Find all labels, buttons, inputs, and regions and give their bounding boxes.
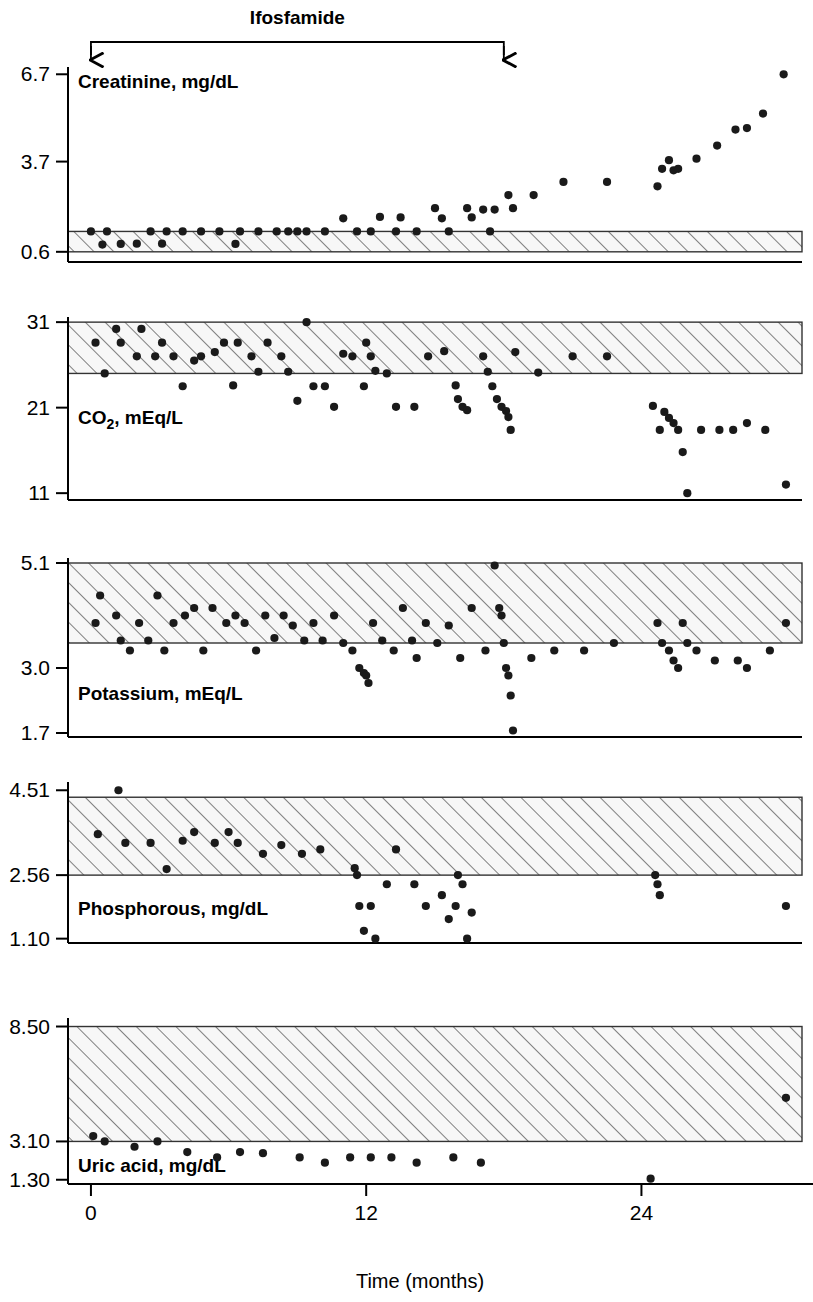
data-point <box>259 850 267 858</box>
y-tick-label: 1.30 <box>9 1168 50 1191</box>
data-point <box>302 227 310 235</box>
ifosfamide-label: Ifosfamide <box>250 7 345 28</box>
data-point <box>530 191 538 199</box>
data-point <box>121 839 129 847</box>
data-point <box>293 227 301 235</box>
data-point <box>355 902 363 910</box>
data-point <box>674 165 682 173</box>
y-tick-label: 8.50 <box>9 1015 50 1038</box>
data-point <box>360 382 368 390</box>
data-point <box>211 839 219 847</box>
data-point <box>146 839 154 847</box>
data-point <box>330 611 338 619</box>
data-point <box>692 646 700 654</box>
data-point <box>160 646 168 654</box>
data-point <box>456 654 464 662</box>
data-point <box>378 636 386 644</box>
panel-phosphorous: 1.102.564.51Phosphorous, mg/dL <box>9 778 802 949</box>
data-point <box>117 339 125 347</box>
data-point <box>454 871 462 879</box>
data-point <box>782 902 790 910</box>
data-point <box>348 646 356 654</box>
reference-range-band <box>68 797 802 875</box>
reference-range-band <box>68 563 802 643</box>
data-point <box>367 352 375 360</box>
data-point <box>146 227 154 235</box>
data-point <box>339 214 347 222</box>
data-point <box>211 348 219 356</box>
data-point <box>213 1153 221 1161</box>
data-point <box>445 227 453 235</box>
data-point <box>383 880 391 888</box>
x-tick-label: 12 <box>355 1201 378 1224</box>
data-point <box>321 382 329 390</box>
data-point <box>761 426 769 434</box>
data-point <box>603 178 611 186</box>
data-point <box>236 227 244 235</box>
panel-label: CO2, mEq/L <box>78 407 183 432</box>
data-point <box>236 1148 244 1156</box>
ifosfamide-annotation: Ifosfamide <box>91 7 504 60</box>
data-point <box>413 1159 421 1167</box>
panel-label: Potassium, mEq/L <box>78 683 243 704</box>
data-point <box>126 646 134 654</box>
data-point <box>153 1137 161 1145</box>
data-point <box>330 403 338 411</box>
multi-panel-scatter-chart: Ifosfamide 0.63.76.7Creatinine, mg/dL 11… <box>0 0 813 1302</box>
data-point <box>527 654 535 662</box>
y-tick-label: 11 <box>28 481 50 504</box>
data-point <box>190 604 198 612</box>
data-point <box>649 402 657 410</box>
data-point <box>360 927 368 935</box>
data-point <box>410 403 418 411</box>
data-point <box>580 646 588 654</box>
data-point <box>319 636 327 644</box>
data-point <box>367 902 375 910</box>
data-point <box>452 381 460 389</box>
data-point <box>98 240 106 248</box>
data-point <box>743 664 751 672</box>
data-point <box>208 604 216 612</box>
data-point <box>449 1153 457 1161</box>
lab-values-over-time-figure: Ifosfamide 0.63.76.7Creatinine, mg/dL 11… <box>0 0 813 1302</box>
data-point <box>658 639 666 647</box>
data-point <box>224 828 232 836</box>
data-point <box>610 639 618 647</box>
data-point <box>504 413 512 421</box>
data-point <box>468 213 476 221</box>
y-tick-label: 5.1 <box>21 551 50 574</box>
data-point <box>362 671 370 679</box>
data-point <box>364 679 372 687</box>
data-point <box>647 1175 655 1183</box>
data-point <box>692 155 700 163</box>
panel-label: Uric acid, mg/dL <box>78 1155 226 1176</box>
ifosfamide-bracket <box>91 42 504 55</box>
data-point <box>277 841 285 849</box>
data-point <box>179 837 187 845</box>
data-point <box>183 1148 191 1156</box>
data-point <box>169 619 177 627</box>
x-tick-label: 0 <box>85 1201 97 1224</box>
data-point <box>504 671 512 679</box>
data-point <box>222 619 230 627</box>
data-point <box>277 352 285 360</box>
x-axis: 01224 <box>68 1184 813 1224</box>
data-point <box>679 448 687 456</box>
data-point <box>254 227 262 235</box>
data-point <box>679 619 687 627</box>
data-point <box>135 619 143 627</box>
data-point <box>711 656 719 664</box>
data-point <box>392 403 400 411</box>
data-point <box>458 880 466 888</box>
data-point <box>321 227 329 235</box>
data-point <box>112 611 120 619</box>
data-point <box>234 339 242 347</box>
data-point <box>413 227 421 235</box>
data-point <box>376 213 384 221</box>
data-point <box>424 352 432 360</box>
data-point <box>158 240 166 248</box>
x-axis-title: Time (months) <box>356 1270 484 1292</box>
data-point <box>488 382 496 390</box>
data-point <box>507 426 515 434</box>
data-point <box>151 352 159 360</box>
